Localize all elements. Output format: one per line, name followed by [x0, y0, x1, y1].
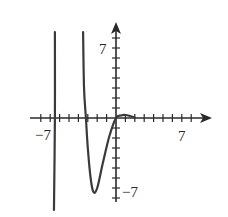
curve-right-branch — [83, 32, 135, 193]
function-graph: −7 7 7 −7 — [0, 0, 228, 217]
curve-left-branch — [54, 32, 55, 210]
y-label-7: 7 — [99, 41, 107, 57]
y-label-neg7: −7 — [122, 184, 138, 200]
x-label-neg7: −7 — [35, 127, 51, 143]
x-label-7: 7 — [178, 128, 186, 144]
